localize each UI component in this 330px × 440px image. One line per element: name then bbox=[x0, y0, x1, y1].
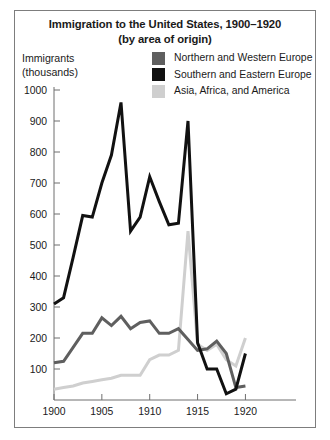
x-tick-label: 1910 bbox=[138, 406, 161, 417]
y-tick-label: 600 bbox=[30, 209, 48, 220]
y-tick-label: 100 bbox=[30, 364, 48, 375]
series-line bbox=[54, 231, 245, 389]
chart-plot-area: 1002003004005006007008009001000190019051… bbox=[0, 0, 330, 440]
x-tick-label: 1900 bbox=[42, 406, 65, 417]
y-tick-label: 1000 bbox=[24, 85, 47, 96]
x-tick-label: 1915 bbox=[186, 406, 209, 417]
y-tick-label: 300 bbox=[30, 302, 48, 313]
x-tick-label: 1920 bbox=[234, 406, 257, 417]
y-tick-label: 200 bbox=[30, 333, 48, 344]
x-tick-label: 1905 bbox=[90, 406, 113, 417]
series-line bbox=[54, 316, 245, 387]
y-tick-label: 500 bbox=[30, 240, 48, 251]
chart-figure: Immigration to the United States, 1900–1… bbox=[0, 0, 330, 440]
y-tick-label: 800 bbox=[30, 147, 48, 158]
y-tick-label: 700 bbox=[30, 178, 48, 189]
series-line bbox=[54, 102, 245, 393]
y-tick-label: 400 bbox=[30, 271, 48, 282]
y-tick-label: 900 bbox=[30, 116, 48, 127]
